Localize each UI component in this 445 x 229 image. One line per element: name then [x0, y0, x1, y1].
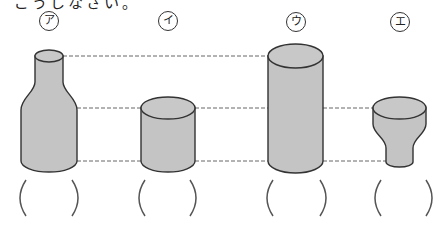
- paren-close-a: [72, 180, 78, 216]
- paren-open-i: [139, 180, 145, 216]
- paren-close-e: [426, 180, 432, 216]
- paren-open-e: [375, 180, 381, 216]
- guide-lines: [63, 56, 386, 161]
- answer-slot-i[interactable]: [149, 186, 187, 210]
- answer-slot-e[interactable]: [385, 186, 423, 210]
- answer-slot-a[interactable]: [30, 186, 70, 210]
- paren-open-u: [267, 180, 273, 216]
- container-i-short-cylinder: [141, 97, 195, 172]
- paren-open-a: [20, 180, 26, 216]
- container-e-funnel: [373, 97, 426, 167]
- diagram-canvas: ごうしなさい。 ア イ ウ エ: [0, 0, 445, 229]
- answer-parentheses: [20, 180, 432, 216]
- paren-close-u: [320, 180, 326, 216]
- container-u-tall-cylinder: [268, 44, 323, 173]
- paren-close-i: [190, 180, 196, 216]
- answer-slot-u[interactable]: [277, 186, 317, 210]
- container-a-bottle: [21, 50, 77, 172]
